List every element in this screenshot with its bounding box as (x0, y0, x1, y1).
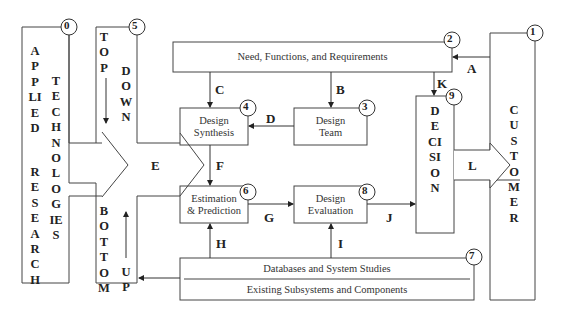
arrow-label-f: F (216, 158, 224, 174)
node-number-4: 4 (243, 100, 249, 112)
design-synthesis-label: DesignSynthesis (180, 115, 248, 139)
down-label: DOWN (119, 64, 133, 126)
design-team-label: DesignTeam (294, 115, 367, 139)
up-label: UP (119, 265, 133, 296)
arrow-label-k: K (437, 76, 447, 92)
design-process-diagram: 0 5 2 1 4 3 6 8 9 7 APPLIED RESEARCH TEC… (0, 0, 562, 320)
bottom-label: BOTTOM (97, 204, 111, 296)
node-number-1: 1 (530, 25, 536, 37)
arrow-label-b: B (336, 82, 345, 98)
customer-label: CUSTOMER (507, 103, 521, 226)
arrow-label-l: L (468, 158, 477, 174)
arrow-label-g: G (264, 210, 274, 226)
arrow-label-d: D (266, 111, 275, 127)
databases-studies-label: Databases and System Studies (180, 263, 474, 275)
need-functions-requirements-label: Need, Functions, and Requirements (173, 51, 452, 63)
top-label: TOP (97, 30, 111, 76)
technologies-label: TECHNOLOGIES (49, 74, 63, 243)
node-number-0: 0 (64, 19, 70, 31)
estimation-prediction-label: Estimation& Prediction (180, 193, 248, 217)
arrow-label-c: C (215, 82, 224, 98)
node-number-5: 5 (132, 19, 138, 31)
design-evaluation-label: DesignEvaluation (294, 193, 367, 217)
arrow-label-a: A (467, 61, 476, 77)
node-number-2: 2 (447, 32, 453, 44)
node-number-9: 9 (449, 89, 455, 101)
node-number-3: 3 (362, 100, 368, 112)
arrow-label-e: E (151, 158, 160, 174)
decision-label: DECISION (428, 104, 442, 196)
arrow-label-j: J (386, 210, 393, 226)
node-number-7: 7 (469, 249, 475, 261)
applied-label: APPLIED (28, 44, 42, 136)
arrow-label-h: H (216, 236, 226, 252)
research-label: RESEARCH (28, 165, 42, 288)
arrow-label-i: I (338, 236, 343, 252)
existing-subsystems-label: Existing Subsystems and Components (180, 284, 474, 296)
